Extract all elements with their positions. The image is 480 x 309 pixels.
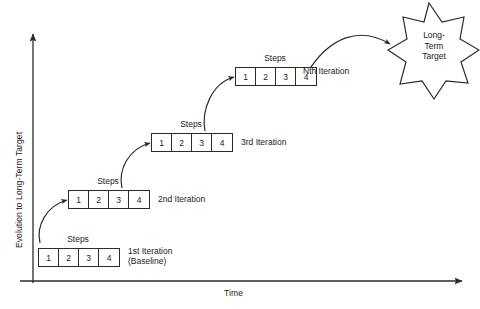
step-cell: 3 bbox=[192, 134, 212, 151]
step-cell: 3 bbox=[109, 191, 129, 208]
iteration-label-1-line1: 1st Iteration bbox=[128, 246, 172, 256]
steps-label-iteration-1: Steps bbox=[38, 234, 118, 244]
step-cell: 1 bbox=[69, 191, 89, 208]
steps-label-iteration-3: Steps bbox=[151, 119, 231, 129]
steps-label-iteration-n: Steps bbox=[235, 53, 315, 63]
step-cell: 3 bbox=[276, 68, 296, 85]
steps-label-iteration-2: Steps bbox=[68, 176, 148, 186]
target-line-3: Target bbox=[422, 51, 446, 61]
long-term-target-text: Long- Term Target bbox=[409, 30, 459, 62]
step-cell: 1 bbox=[152, 134, 172, 151]
target-line-1: Long- bbox=[423, 30, 445, 40]
evolution-to-long-term-target-diagram: Evolution to Long-Term Target Time Steps… bbox=[0, 0, 480, 309]
step-cell: 4 bbox=[129, 191, 149, 208]
step-cell: 2 bbox=[89, 191, 109, 208]
iteration-label-3: 3rd Iteration bbox=[241, 137, 286, 147]
iteration-label-1-line2: (Baseline) bbox=[128, 256, 172, 266]
iteration-label-n: Nth Iteration bbox=[303, 66, 349, 76]
step-cell: 2 bbox=[172, 134, 192, 151]
step-cell: 2 bbox=[256, 68, 276, 85]
steps-row-iteration-2: 1 2 3 4 bbox=[68, 190, 150, 209]
step-cell: 4 bbox=[212, 134, 232, 151]
iteration-label-1: 1st Iteration (Baseline) bbox=[128, 246, 172, 266]
steps-row-iteration-3: 1 2 3 4 bbox=[151, 133, 233, 152]
target-line-2: Term bbox=[425, 41, 444, 51]
step-cell: 4 bbox=[99, 249, 119, 266]
step-cell: 1 bbox=[236, 68, 256, 85]
x-axis-label: Time bbox=[224, 288, 243, 298]
iteration-label-2: 2nd Iteration bbox=[158, 194, 205, 204]
step-cell: 1 bbox=[39, 249, 59, 266]
steps-row-iteration-1: 1 2 3 4 bbox=[38, 248, 120, 267]
step-cell: 2 bbox=[59, 249, 79, 266]
step-cell: 3 bbox=[79, 249, 99, 266]
y-axis-label: Evolution to Long-Term Target bbox=[14, 132, 24, 248]
